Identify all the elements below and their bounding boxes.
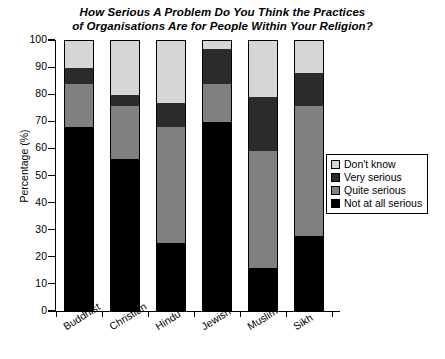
chart-title-line-2: of Organisations Are for People Within Y…: [0, 19, 445, 33]
bar-segment: [295, 73, 323, 105]
legend-item: Quite serious: [331, 184, 422, 197]
chart-legend: Don't knowVery seriousQuite seriousNot a…: [326, 154, 428, 214]
legend-swatch-icon: [331, 173, 340, 182]
y-axis-tick: [48, 148, 55, 149]
legend-label: Not at all serious: [344, 198, 422, 209]
bar-segment: [111, 159, 139, 310]
bar-segment: [65, 84, 93, 127]
bar-segment: [65, 68, 93, 84]
bar-segment: [157, 103, 185, 127]
chart-title-line-1: How Serious A Problem Do You Think the P…: [80, 6, 366, 18]
y-axis-tick: [48, 121, 55, 122]
legend-swatch-icon: [331, 160, 340, 169]
legend-item: Not at all serious: [331, 197, 422, 210]
bar-hindu: [156, 40, 186, 311]
legend-item: Very serious: [331, 171, 422, 184]
bar-segment: [111, 41, 139, 95]
bar-segment: [157, 243, 185, 310]
x-axis-tick: [332, 311, 333, 317]
y-axis-tick-label: 20: [1, 251, 47, 261]
bar-segment: [203, 84, 231, 122]
legend-label: Quite serious: [344, 185, 406, 196]
y-axis-tick: [48, 283, 55, 284]
legend-swatch-icon: [331, 186, 340, 195]
chart-title: How Serious A Problem Do You Think the P…: [0, 5, 445, 33]
y-axis-tick-label: 10: [1, 278, 47, 288]
bar-segment: [111, 95, 139, 106]
bar-segment: [249, 97, 277, 151]
legend-swatch-icon: [331, 199, 340, 208]
x-axis-tick: [286, 311, 287, 317]
x-axis-label-sikh: Sikh: [291, 311, 315, 332]
bar-segment: [295, 41, 323, 73]
x-axis-tick: [240, 311, 241, 317]
y-axis-tick: [48, 67, 55, 68]
y-axis-tick: [48, 256, 55, 257]
stacked-bar-chart: How Serious A Problem Do You Think the P…: [0, 0, 445, 359]
x-axis-tick: [56, 311, 57, 317]
y-axis-tick: [48, 94, 55, 95]
bar-sikh: [294, 40, 324, 311]
x-axis-tick: [194, 311, 195, 317]
x-axis-tick: [148, 311, 149, 317]
y-axis-tick-label: 0: [1, 305, 47, 315]
bar-jewish: [202, 40, 232, 311]
bar-segment: [249, 151, 277, 268]
bar-segment: [295, 106, 323, 236]
x-axis-tick: [102, 311, 103, 317]
y-axis-title: Percentage (%): [18, 86, 30, 246]
bar-segment: [65, 41, 93, 68]
bar-segment: [203, 122, 231, 310]
bar-segment: [157, 41, 185, 103]
y-axis-tick: [48, 39, 55, 40]
y-axis-tick-label: 100: [1, 34, 47, 44]
legend-label: Don't know: [344, 159, 396, 170]
y-axis-tick: [48, 175, 55, 176]
legend-item: Don't know: [331, 158, 422, 171]
bar-segment: [295, 236, 323, 310]
bar-muslim: [248, 40, 278, 311]
legend-label: Very serious: [344, 172, 402, 183]
bar-segment: [65, 127, 93, 310]
y-axis-tick-label: 90: [1, 61, 47, 71]
bar-segment: [111, 106, 139, 160]
bar-segment: [249, 41, 277, 97]
plot-area: [56, 40, 332, 311]
bar-segment: [157, 127, 185, 243]
y-axis-tick: [48, 310, 55, 311]
bar-segment: [203, 49, 231, 84]
bar-buddhist: [64, 40, 94, 311]
bar-christian: [110, 40, 140, 311]
y-axis-tick: [48, 229, 55, 230]
y-axis-tick: [48, 202, 55, 203]
bar-segment: [203, 41, 231, 49]
